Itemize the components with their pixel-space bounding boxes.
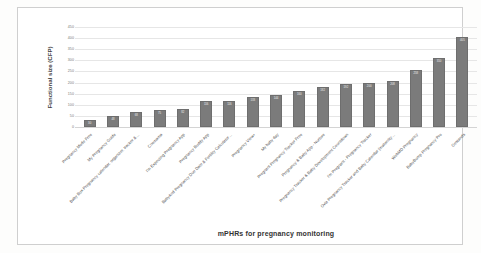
bar[interactable]: 405 [456,37,468,127]
bar-slot: 182 [311,27,334,127]
x-tick-label: My baby day [260,132,280,152]
bar-slot: 133 [241,27,264,127]
bar-value-label: 133 [248,99,258,102]
bar[interactable]: 160 [293,91,305,127]
bar[interactable]: 310 [433,58,445,127]
bar-slot: 30 [78,27,101,127]
bar-series: 3048687582116116133144160182192200208258… [75,27,477,127]
x-tick-label: Gestands [450,132,466,148]
y-tick-label: 200 [44,81,74,85]
bar-value-label: 405 [457,39,467,42]
plot-area: 050100150200250300350400450 304868758211… [75,27,477,128]
chart-frame: Functional size (CFP) 050100150200250300… [17,7,463,245]
bar-value-label: 68 [131,114,141,117]
bar-value-label: 116 [201,103,211,106]
bar-slot: 116 [194,27,217,127]
y-tick-label: 150 [44,92,74,96]
y-tick-label: 100 [44,103,74,107]
bar-slot: 160 [288,27,311,127]
bar-slot: 48 [101,27,124,127]
bar[interactable]: 208 [387,81,399,127]
bar-value-label: 160 [294,93,304,96]
y-tick-label: 0 [44,125,74,129]
x-tick-label: Cnemama [146,132,163,149]
bar-value-label: 30 [85,122,95,125]
bar[interactable]: 258 [410,70,422,127]
bar[interactable]: 116 [200,101,212,127]
y-axis-title: Functional size (CFP) [45,27,55,128]
y-tick-label: 50 [44,114,74,118]
bar[interactable]: 192 [340,84,352,127]
x-axis-line [75,127,477,128]
bar-value-label: 182 [318,89,328,92]
bar[interactable]: 182 [317,87,329,127]
x-axis-category-labels: Pregnancy Mode FreeMy Pregnancy GuideBab… [75,130,477,225]
bar[interactable]: 116 [223,101,235,127]
bar-slot: 144 [264,27,287,127]
bar-slot: 116 [218,27,241,127]
x-tick-label: I'm Expecting Pregnancy App [145,132,186,173]
x-tick-label: I'm Pregnant - Pregnancy Tracker [326,132,373,179]
x-tick-label: Pregnant Pregnancy Tracker Free [256,132,303,179]
y-tick-label: 300 [44,58,74,62]
bar-slot: 208 [381,27,404,127]
bar-value-label: 208 [388,83,398,86]
bar-slot: 75 [148,27,171,127]
bar[interactable]: 82 [177,109,189,127]
bar-slot: 310 [427,27,450,127]
bar-value-label: 192 [341,86,351,89]
bar-slot: 200 [358,27,381,127]
bar[interactable]: 75 [154,110,166,127]
bar-slot: 82 [171,27,194,127]
bar-value-label: 48 [108,118,118,121]
y-tick-label: 450 [44,25,74,29]
bar-value-label: 144 [271,97,281,100]
bar[interactable]: 133 [247,97,259,127]
bar[interactable]: 68 [130,112,142,127]
bar-value-label: 75 [155,112,165,115]
bar-slot: 258 [404,27,427,127]
bar-value-label: 116 [224,103,234,106]
bar-slot: 68 [125,27,148,127]
bar-value-label: 200 [364,85,374,88]
bar[interactable]: 30 [84,120,96,127]
bar-value-label: 82 [178,111,188,114]
x-tick-label: Pregnancy View+ [230,132,256,158]
bar-slot: 192 [334,27,357,127]
y-tick-label: 350 [44,47,74,51]
y-tick-label: 400 [44,36,74,40]
x-axis-title: mPHRs for pregnancy monitoring [75,230,477,237]
bar[interactable]: 200 [363,83,375,127]
bar-value-label: 310 [434,60,444,63]
bar[interactable]: 48 [107,116,119,127]
bar[interactable]: 144 [270,95,282,127]
chart-figure: Functional size (CFP) 050100150200250300… [0,0,481,253]
x-tick-label: Pregnancy & Baby App - Nurture [281,132,327,178]
y-tick-label: 250 [44,69,74,73]
bar-value-label: 258 [411,72,421,75]
bar-slot: 405 [451,27,474,127]
